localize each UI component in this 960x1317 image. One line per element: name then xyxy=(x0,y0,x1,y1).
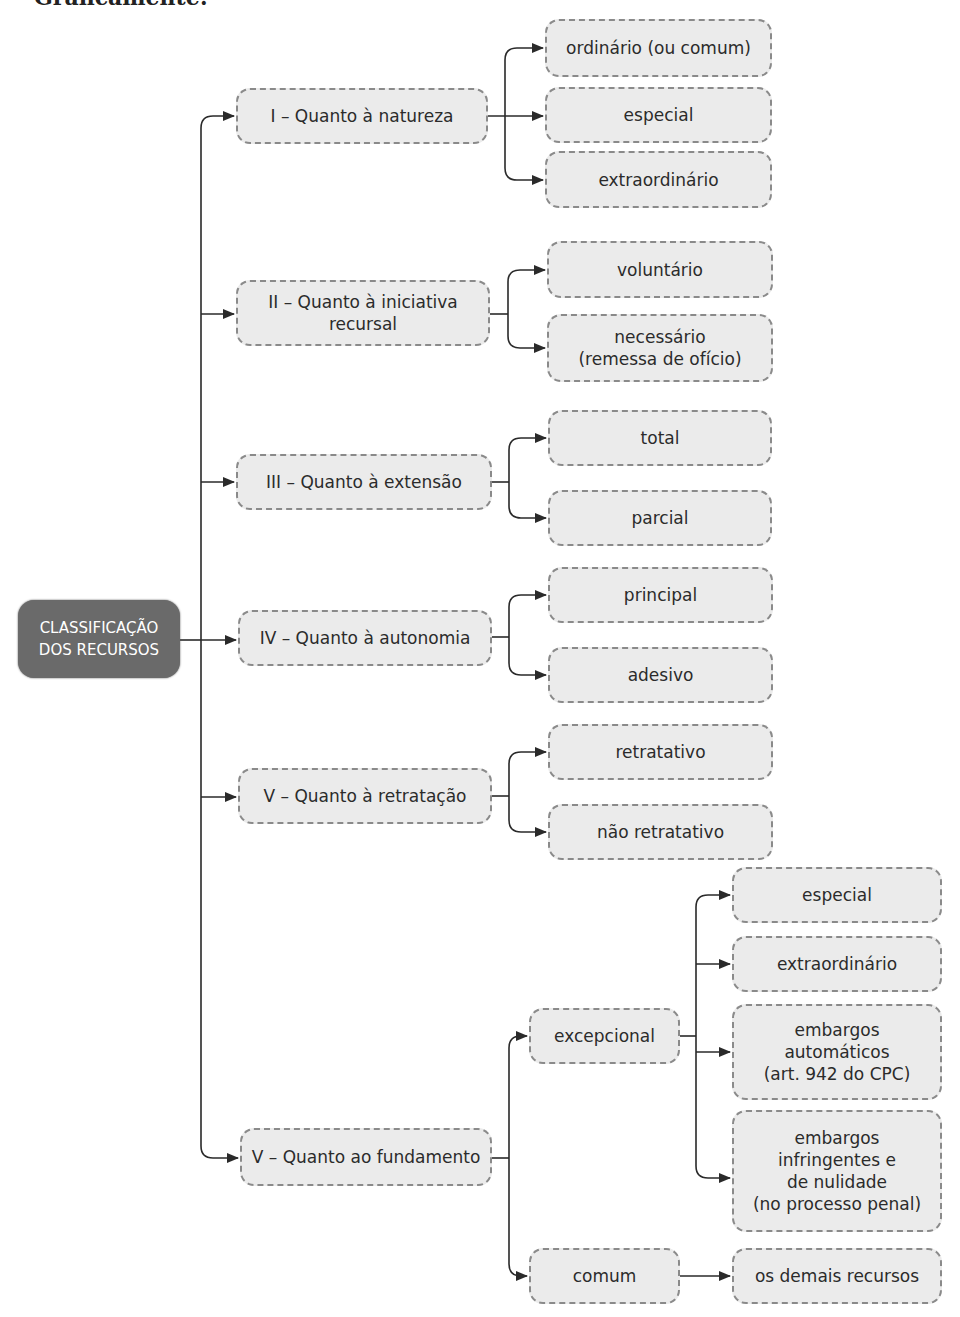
category-fundamento: V – Quanto ao fundamento xyxy=(240,1128,492,1186)
category-retratacao: V – Quanto à retratação xyxy=(238,768,492,824)
leaf-extraordinario: extraordinário xyxy=(545,151,772,208)
leaf-parcial: parcial xyxy=(548,490,772,546)
leaf-especial: especial xyxy=(545,87,772,143)
leaf-embargos-infringentes: embargos infringentes e de nulidade (no … xyxy=(732,1110,942,1232)
leaf-adesivo: adesivo xyxy=(548,647,773,703)
leaf-exc-especial: especial xyxy=(732,867,942,923)
leaf-demais-recursos: os demais recursos xyxy=(732,1248,942,1304)
category-autonomia: IV – Quanto à autonomia xyxy=(238,610,492,666)
node-comum: comum xyxy=(529,1248,680,1304)
leaf-voluntario: voluntário xyxy=(547,241,773,298)
leaf-exc-extraordinario: extraordinário xyxy=(732,936,942,992)
leaf-necessario: necessário (remessa de ofício) xyxy=(547,314,773,382)
leaf-ordinario: ordinário (ou comum) xyxy=(545,19,772,77)
leaf-embargos-automaticos: embargos automáticos (art. 942 do CPC) xyxy=(732,1004,942,1100)
category-natureza: I – Quanto à natureza xyxy=(236,88,488,144)
category-extensao: III – Quanto à extensão xyxy=(236,454,492,510)
leaf-nao-retratativo: não retratativo xyxy=(548,804,773,860)
leaf-retratativo: retratativo xyxy=(548,724,773,780)
leaf-total: total xyxy=(548,410,772,466)
node-excepcional: excepcional xyxy=(529,1008,680,1064)
leaf-principal: principal xyxy=(548,567,773,623)
category-iniciativa: II – Quanto à iniciativa recursal xyxy=(236,280,490,346)
root-node-classificacao: CLASSIFICAÇÃO DOS RECURSOS xyxy=(18,600,180,678)
